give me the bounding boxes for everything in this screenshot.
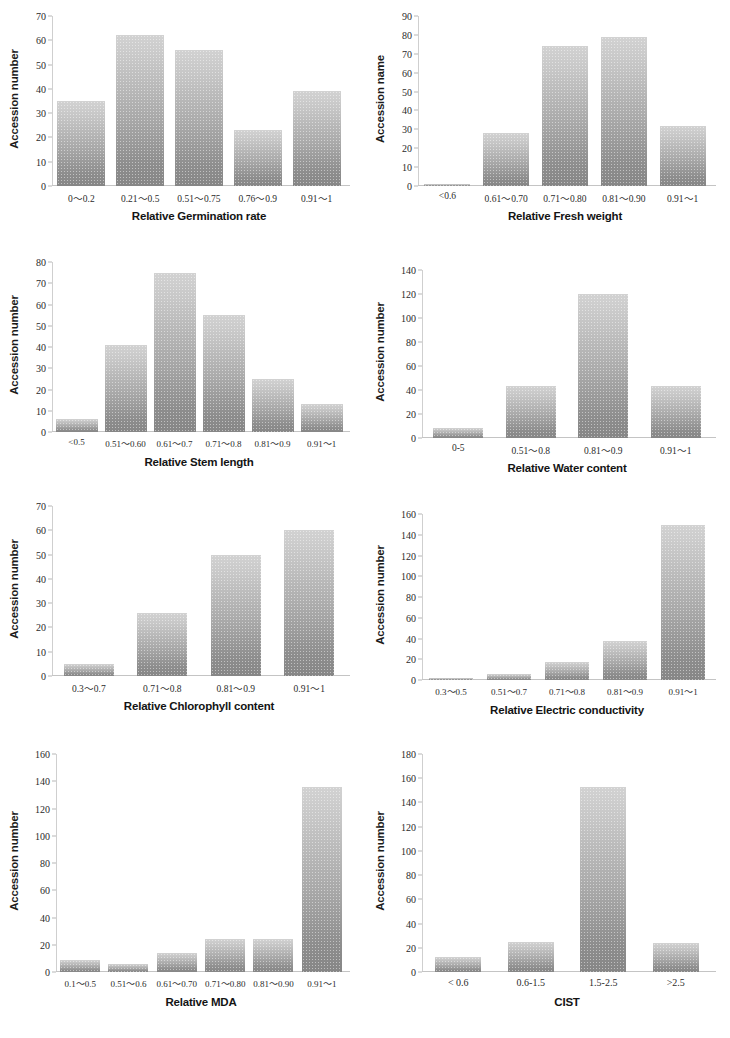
y-axis-tick-label: 80	[406, 592, 416, 603]
chart-panel-relative-water-content: Accession number0204060801001201400-50.5…	[372, 260, 724, 500]
y-axis-label: Accession number	[372, 504, 388, 686]
y-axis-label-text: Accession number	[8, 811, 20, 911]
bar	[137, 613, 187, 676]
y-axis-tick-label: 160	[35, 749, 50, 760]
bar-slot	[249, 754, 297, 972]
y-axis-tick-label: 60	[40, 885, 50, 896]
x-axis-tick-label: 0.6-1.5	[495, 977, 568, 988]
x-axis-tick-label: 0.81～0.9	[567, 443, 640, 457]
x-axis-ticks: 0～0.20.21～0.50.51～0.750.76～0.90.91～1	[52, 191, 346, 205]
bar-slot	[594, 16, 653, 186]
x-axis-tick-label: 0.3～0.5	[422, 685, 480, 698]
bar-series	[422, 754, 712, 972]
y-axis-label-text: Accession number	[374, 811, 386, 911]
x-axis-tick-label: 0.71～0.80	[536, 191, 595, 205]
y-axis-tick-label: 10	[36, 156, 46, 167]
bar	[578, 294, 628, 438]
x-axis-tick-label: 0.91～1	[287, 191, 346, 205]
y-axis-tick-label: 120	[401, 821, 416, 832]
y-axis-ticks: 010203040506070	[18, 16, 52, 186]
y-axis-label: Accession number	[372, 260, 388, 444]
x-axis-tick-label: 0.51～0.8	[495, 443, 568, 457]
y-axis-ticks: 020406080100120140	[388, 270, 422, 438]
y-axis-tick-label: 0	[41, 671, 46, 682]
y-axis-ticks: 01020304050607080	[18, 262, 52, 432]
y-axis-tick-label: 70	[36, 278, 46, 289]
bar	[302, 787, 342, 972]
bar-slot	[536, 16, 595, 186]
y-axis-label: Accession number	[6, 744, 22, 978]
bar	[660, 126, 706, 186]
bar-slot	[640, 754, 713, 972]
chart-panel-relative-germination-rate: Accession number0102030405060700～0.20.21…	[6, 6, 358, 238]
x-axis-tick-label: 0.71～0.8	[538, 685, 596, 698]
y-axis-tick-label: 120	[35, 803, 50, 814]
y-axis-tick-label: 0	[41, 427, 46, 438]
bar-slot	[654, 514, 712, 680]
bar	[487, 674, 531, 680]
plot-area	[422, 754, 712, 972]
y-axis-tick-label: 140	[401, 529, 416, 540]
bar	[603, 641, 647, 680]
y-axis-tick-label: 0	[411, 967, 416, 978]
x-axis-tick-label: 0.71～0.8	[199, 437, 248, 450]
bar-slot	[199, 262, 248, 432]
bar-slot	[52, 506, 126, 676]
x-axis-tick-label: 0.81～0.90	[249, 977, 297, 990]
bar-slot	[422, 514, 480, 680]
chart-panel-relative-electric-conductivity: Accession number0204060801001201401600.3…	[372, 504, 724, 738]
x-axis-ticks: <0.50.51～0.600.61～0.70.71～0.80.81～0.90.9…	[52, 437, 346, 450]
bar	[205, 939, 245, 972]
y-axis-tick-label: 10	[402, 162, 412, 173]
y-axis-tick-label: 20	[406, 409, 416, 420]
x-axis-ticks: < 0.60.6-1.51.5-2.5>2.5	[422, 977, 712, 988]
y-axis-tick-label: 20	[40, 939, 50, 950]
bar	[435, 957, 481, 972]
y-axis-tick-label: 80	[40, 858, 50, 869]
y-axis-tick-label: 60	[406, 361, 416, 372]
bar	[542, 46, 588, 186]
y-axis-tick-label: 30	[36, 363, 46, 374]
bar-slot	[298, 754, 346, 972]
y-axis-tick-label: 80	[402, 29, 412, 40]
y-axis-tick-label: 100	[35, 830, 50, 841]
x-axis-tick-label: 0.81～0.90	[594, 191, 653, 205]
y-axis-tick-label: 10	[36, 405, 46, 416]
bar-slot	[422, 754, 495, 972]
y-axis-tick-label: 80	[406, 870, 416, 881]
bar	[60, 960, 100, 972]
x-axis-label: CIST	[422, 996, 712, 1008]
bar	[57, 101, 105, 186]
bar	[175, 50, 223, 186]
bar-series	[422, 514, 712, 680]
bar	[506, 386, 556, 438]
y-axis-tick-label: 100	[401, 313, 416, 324]
x-axis-label: Relative MDA	[56, 996, 346, 1008]
y-axis-tick-label: 10	[36, 646, 46, 657]
x-axis-tick-label: 0.21～0.5	[111, 191, 170, 205]
bar	[253, 939, 293, 972]
bar-slot	[495, 270, 568, 438]
x-axis-tick-label: < 0.6	[422, 977, 495, 988]
x-axis-tick-label: 0.51～0.7	[480, 685, 538, 698]
y-axis-tick-label: 160	[401, 509, 416, 520]
y-axis-tick-label: 40	[402, 105, 412, 116]
x-axis-label: Relative Fresh weight	[418, 210, 712, 222]
x-axis-tick-label: 0.1～0.5	[56, 977, 104, 990]
x-axis-label: Relative Electric conductivity	[422, 704, 712, 716]
bar	[653, 943, 699, 972]
bar	[483, 133, 529, 186]
y-axis-tick-label: 40	[36, 573, 46, 584]
plot-area	[422, 270, 712, 438]
x-axis-tick-label: 0～0.2	[52, 191, 111, 205]
x-axis-tick-label: 0-5	[422, 443, 495, 457]
y-axis-label: Accession number	[372, 744, 388, 978]
bar	[105, 345, 147, 432]
bar	[56, 419, 98, 432]
bar-slot	[248, 262, 297, 432]
y-axis-tick-label: 160	[401, 773, 416, 784]
x-axis-ticks: 0.1～0.50.51～0.60.61～0.700.71～0.800.81～0.…	[56, 977, 346, 990]
y-axis-label-text: Accession number	[374, 302, 386, 402]
y-axis-tick-label: 140	[35, 776, 50, 787]
y-axis-tick-label: 70	[36, 501, 46, 512]
